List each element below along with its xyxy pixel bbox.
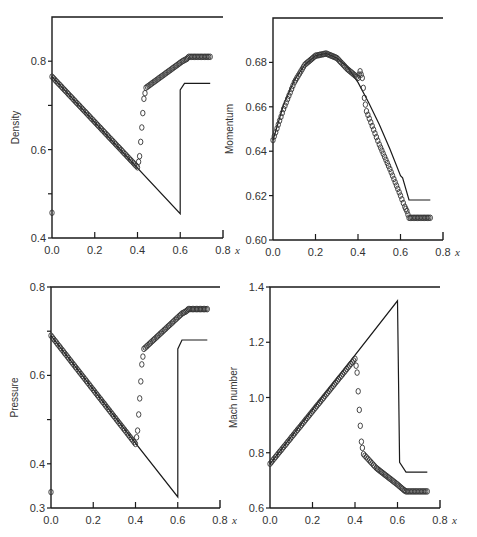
x-tick-label: 0.2 <box>308 246 323 258</box>
data-marker <box>143 90 147 96</box>
density-plot: 0.00.20.40.60.8x0.40.60.8Density <box>10 17 240 256</box>
x-tick-label: 0.8 <box>215 244 230 256</box>
data-marker <box>392 176 396 182</box>
data-marker <box>363 453 367 459</box>
y-tick-label: 0.60 <box>246 234 267 246</box>
data-marker <box>363 102 367 108</box>
data-marker <box>137 412 141 418</box>
plot-frame <box>51 287 220 508</box>
data-marker <box>361 451 365 457</box>
y-tick-label: 0.6 <box>249 502 264 514</box>
y-tick-label: 0.4 <box>31 232 46 244</box>
data-marker <box>359 439 363 445</box>
exact-solution-line <box>270 301 427 472</box>
numerical-solution-markers <box>271 51 433 221</box>
data-marker <box>139 379 143 385</box>
y-axis-label: Mach number <box>228 366 239 428</box>
data-marker <box>141 354 145 360</box>
y-tick-label: 0.6 <box>31 144 46 156</box>
data-marker <box>138 396 142 402</box>
x-axis-variable: x <box>451 514 457 526</box>
x-tick-label: 0.0 <box>43 514 58 526</box>
data-marker <box>360 75 364 81</box>
data-marker <box>389 170 393 176</box>
x-tick-label: 0.4 <box>128 514 143 526</box>
data-marker <box>135 428 139 434</box>
data-marker <box>354 363 358 369</box>
x-axis-variable: x <box>454 246 460 258</box>
y-axis-label: Momentum <box>224 104 235 154</box>
exact-solution-line <box>52 77 210 214</box>
y-tick-label: 1.0 <box>249 392 264 404</box>
data-marker <box>368 459 372 465</box>
data-marker <box>142 96 146 102</box>
y-tick-label: 0.64 <box>246 145 267 157</box>
data-marker <box>137 153 141 159</box>
data-marker <box>357 407 361 413</box>
x-axis-variable: x <box>231 514 237 526</box>
data-marker <box>139 139 143 145</box>
data-marker <box>355 370 359 376</box>
y-axis-label: Density <box>10 111 21 144</box>
y-tick-label: 0.4 <box>30 458 45 470</box>
data-marker <box>396 186 400 192</box>
y-tick-label: 0.8 <box>31 55 46 67</box>
plot-frame <box>52 17 223 238</box>
numerical-solution-markers <box>49 306 210 495</box>
data-marker <box>141 110 145 116</box>
x-tick-label: 0.0 <box>44 244 59 256</box>
x-tick-label: 0.0 <box>265 246 280 258</box>
data-marker <box>371 462 375 468</box>
y-tick-label: 0.6 <box>30 369 45 381</box>
pressure-plot: 0.00.20.40.60.8x0.30.40.60.8Pressure <box>9 281 237 526</box>
y-tick-label: 0.66 <box>246 101 267 113</box>
x-tick-label: 0.2 <box>86 514 101 526</box>
numerical-solution-markers <box>50 54 213 216</box>
plot-frame <box>273 18 443 240</box>
plot-frame <box>270 287 440 508</box>
x-tick-label: 0.6 <box>390 514 405 526</box>
x-axis-variable: x <box>234 244 240 256</box>
x-tick-label: 0.8 <box>435 246 450 258</box>
data-marker <box>356 389 360 395</box>
data-marker <box>358 69 362 75</box>
x-tick-label: 0.8 <box>212 514 227 526</box>
y-tick-label: 0.68 <box>246 56 267 68</box>
data-marker <box>361 85 365 91</box>
data-marker <box>360 445 364 451</box>
figure-canvas: 0.00.20.40.60.8x0.40.60.8Density 0.00.20… <box>0 0 477 537</box>
y-tick-label: 1.4 <box>249 281 264 293</box>
data-marker <box>394 183 398 189</box>
data-marker <box>134 435 138 441</box>
y-axis-label: Pressure <box>9 377 20 417</box>
data-marker <box>140 125 144 131</box>
data-marker <box>140 362 144 368</box>
data-marker <box>358 423 362 429</box>
x-tick-label: 0.4 <box>347 514 362 526</box>
data-marker <box>393 180 397 186</box>
x-tick-label: 0.8 <box>432 514 447 526</box>
y-tick-label: 0.3 <box>30 502 45 514</box>
y-tick-label: 0.8 <box>249 447 264 459</box>
x-tick-label: 0.2 <box>87 244 102 256</box>
mach-number-plot: 0.00.20.40.60.8x0.60.81.01.21.4Mach numb… <box>228 281 457 526</box>
exact-solution-line <box>51 336 207 497</box>
x-tick-label: 0.6 <box>170 514 185 526</box>
x-tick-label: 0.0 <box>262 514 277 526</box>
momentum-plot: 0.00.20.40.60.8x0.600.620.640.660.68Mome… <box>224 18 460 258</box>
numerical-solution-markers <box>268 356 430 494</box>
y-tick-label: 0.8 <box>30 281 45 293</box>
data-marker <box>397 190 401 196</box>
data-marker <box>136 159 140 165</box>
y-tick-label: 1.2 <box>249 336 264 348</box>
x-tick-label: 0.4 <box>130 244 145 256</box>
x-tick-label: 0.2 <box>305 514 320 526</box>
x-tick-label: 0.6 <box>173 244 188 256</box>
y-tick-label: 0.62 <box>246 190 267 202</box>
x-tick-label: 0.6 <box>393 246 408 258</box>
x-tick-label: 0.4 <box>350 246 365 258</box>
data-marker <box>390 173 394 179</box>
